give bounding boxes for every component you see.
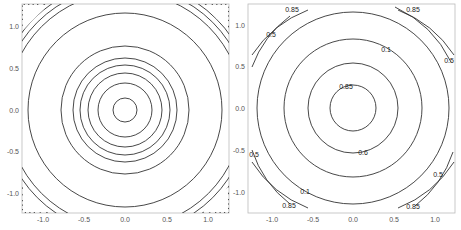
svg-text:-1.0: -1.0 (7, 190, 19, 197)
svg-text:0.5: 0.5 (433, 171, 443, 178)
svg-text:1.0: 1.0 (430, 216, 440, 223)
svg-text:0.5: 0.5 (9, 65, 19, 72)
right-contour-plot: 0.85 0.5 0.85 0.5 0.1 0.85 0.6 0.5 0.1 0… (233, 4, 455, 223)
svg-text:-0.5: -0.5 (233, 147, 245, 154)
left-x-axis: -1.0 -0.5 0.0 0.5 1.0 (37, 216, 213, 223)
svg-text:0.85: 0.85 (282, 202, 296, 209)
svg-text:-0.5: -0.5 (78, 216, 90, 223)
svg-text:-1.0: -1.0 (233, 189, 245, 196)
svg-text:0.5: 0.5 (249, 151, 259, 158)
svg-text:0.5: 0.5 (444, 57, 454, 64)
svg-text:0.5: 0.5 (235, 63, 245, 70)
svg-text:0.0: 0.0 (9, 107, 19, 114)
svg-text:1.0: 1.0 (9, 23, 19, 30)
svg-text:0.85: 0.85 (406, 6, 420, 13)
svg-text:-1.0: -1.0 (37, 216, 49, 223)
contour-figure: -1.0 -0.5 0.0 0.5 1.0 1.0 0.5 0.0 -0.5 -… (0, 0, 461, 230)
svg-text:-0.5: -0.5 (7, 148, 19, 155)
svg-text:0.0: 0.0 (348, 216, 358, 223)
svg-text:0.0: 0.0 (120, 216, 130, 223)
left-plot-frame (22, 4, 229, 213)
svg-text:1.0: 1.0 (203, 216, 213, 223)
svg-text:0.85: 0.85 (285, 6, 299, 13)
svg-text:0.85: 0.85 (406, 203, 420, 210)
svg-text:-0.5: -0.5 (307, 216, 319, 223)
svg-text:1.0: 1.0 (235, 22, 245, 29)
svg-text:0.5: 0.5 (162, 216, 172, 223)
svg-text:0.1: 0.1 (381, 46, 391, 53)
svg-text:0.1: 0.1 (300, 188, 310, 195)
svg-text:0.85: 0.85 (339, 83, 353, 90)
svg-text:-1.0: -1.0 (266, 216, 278, 223)
svg-text:0.5: 0.5 (389, 216, 399, 223)
right-x-axis: -1.0 -0.5 0.0 0.5 1.0 (266, 216, 440, 223)
right-y-axis: 1.0 0.5 0.0 -0.5 -1.0 (233, 22, 245, 196)
svg-text:0.6: 0.6 (358, 149, 368, 156)
left-contour-plot: -1.0 -0.5 0.0 0.5 1.0 1.0 0.5 0.0 -0.5 -… (0, 0, 271, 230)
svg-text:0.5: 0.5 (266, 31, 276, 38)
svg-text:0.0: 0.0 (235, 105, 245, 112)
right-plot-frame (248, 4, 455, 213)
left-y-axis: 1.0 0.5 0.0 -0.5 -1.0 (7, 23, 19, 197)
